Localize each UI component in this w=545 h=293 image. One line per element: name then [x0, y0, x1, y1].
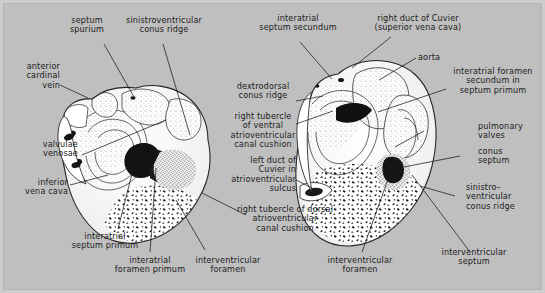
label-interventricular-foramen-right: interventricular foramen	[312, 256, 408, 275]
label-sinistroventricular-conus-ridge-right: sinistro– ventricular conus ridge	[466, 183, 540, 211]
label-aorta: aorta	[418, 53, 452, 62]
label-interventricular-foramen-left: interventricular foramen	[180, 256, 276, 275]
figure-plate: septum spurium sinistroventricular conus…	[0, 0, 545, 293]
left-heart-section	[61, 86, 210, 245]
label-dextrodorsal-conus-ridge: dextrodorsal conus ridge	[228, 82, 298, 101]
label-right-tubercle-dorsal: right tubercle of dorsal atrioventricula…	[226, 205, 344, 233]
label-pulmonary-valves: pulmonary valves	[478, 122, 540, 141]
label-interventricular-septum: interventricular septum	[424, 248, 524, 267]
label-anterior-cardinal-vein: anterior cardinal vein	[8, 62, 60, 90]
label-right-tubercle-ventral: right tubercle of ventral atrioventricul…	[228, 112, 298, 150]
label-sinistroventricular-conus-ridge-top: sinistroventricular conus ridge	[110, 16, 218, 35]
label-interatrial-septum-secundum: interatrial septum secundum	[252, 14, 344, 33]
label-left-duct-of-cuvier: left duct of Cuvier in atrioventricular …	[224, 156, 296, 194]
label-conus-septum: conus septum	[478, 147, 540, 166]
label-inferior-vena-cava: inferior vena cava	[6, 178, 68, 197]
label-right-duct-of-cuvier: right duct of Cuvier (superior vena cava…	[356, 14, 480, 33]
label-septum-spurium: septum spurium	[58, 16, 116, 35]
label-valvulae-venosae: valvulae venosae	[14, 140, 78, 159]
label-interatrial-septum-primum: interatrial septum primum	[56, 232, 154, 251]
label-interatrial-foramen-secundum: interatrial foramen secundum in septum p…	[444, 67, 542, 95]
